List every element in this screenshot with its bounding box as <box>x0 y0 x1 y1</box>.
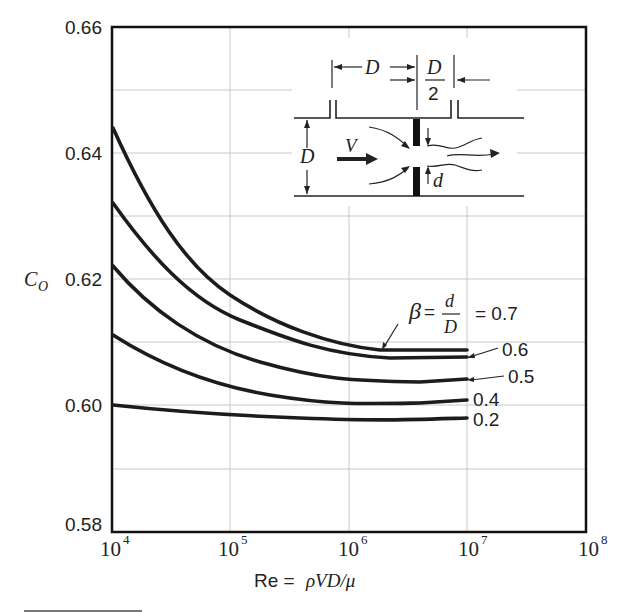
x-tick-1e4: 10 4 <box>100 532 130 561</box>
inset-label-D-upstream: D <box>364 56 380 78</box>
y-tick-064: 0.64 <box>65 143 102 164</box>
x-axis-label: Re = ρVD/μ <box>254 570 355 591</box>
y-tick-058: 0.58 <box>65 514 102 535</box>
inset-label-D-half-num: D <box>426 56 442 78</box>
svg-text:0.6: 0.6 <box>502 339 528 360</box>
label-beta-04: 0.4 <box>473 389 500 410</box>
x-tick-1e6: 10 6 <box>338 532 368 561</box>
svg-text:10: 10 <box>338 537 359 561</box>
svg-text:10: 10 <box>100 537 121 561</box>
svg-text:0.4: 0.4 <box>473 389 500 410</box>
svg-text:0.5: 0.5 <box>508 366 534 387</box>
y-tick-066: 0.66 <box>65 17 102 38</box>
y-axis-ticks: 0.66 0.64 0.62 0.60 0.58 <box>65 17 102 535</box>
x-axis-ticks: 10 4 10 5 10 6 10 7 10 8 <box>100 532 608 561</box>
svg-text:7: 7 <box>481 532 488 547</box>
curve-beta-0.2 <box>113 405 467 420</box>
svg-text:d: d <box>445 291 455 311</box>
inset-label-d: d <box>433 169 444 191</box>
svg-text:5: 5 <box>241 532 248 547</box>
svg-text:10: 10 <box>218 537 239 561</box>
svg-text:4: 4 <box>123 532 130 547</box>
svg-text:= 0.7: = 0.7 <box>475 303 518 324</box>
svg-text:10: 10 <box>578 537 599 561</box>
svg-text:=: = <box>424 301 435 322</box>
label-beta-07: β = d D = 0.7 <box>382 291 518 350</box>
svg-text:0.2: 0.2 <box>473 409 499 430</box>
curve-labels: β = d D = 0.7 0.6 0.5 0.4 0.2 <box>382 291 534 430</box>
svg-text:D: D <box>443 317 457 337</box>
inset-label-D-half-den: 2 <box>428 83 439 104</box>
svg-text:10: 10 <box>458 537 479 561</box>
svg-text:ρVD/μ: ρVD/μ <box>305 570 355 591</box>
x-tick-1e5: 10 5 <box>218 532 248 561</box>
inset-label-D-pipe: D <box>299 145 315 167</box>
label-beta-02: 0.2 <box>473 409 499 430</box>
svg-text:β: β <box>408 298 421 324</box>
x-tick-1e8: 10 8 <box>578 532 608 561</box>
y-tick-060: 0.60 <box>65 395 102 416</box>
y-tick-062: 0.62 <box>65 269 102 290</box>
y-label-c: C <box>24 268 38 290</box>
x-tick-1e7: 10 7 <box>458 532 488 561</box>
y-label-sub: O <box>38 279 48 294</box>
svg-text:6: 6 <box>361 532 368 547</box>
orifice-inset-diagram: D D 2 D V <box>292 38 524 206</box>
label-beta-05: 0.5 <box>467 366 534 387</box>
svg-text:Re =: Re = <box>254 570 295 591</box>
orifice-coefficient-chart: 0.66 0.64 0.62 0.60 0.58 C O 10 4 10 5 1… <box>0 0 618 612</box>
y-axis-label: C O <box>24 268 48 294</box>
svg-text:8: 8 <box>601 532 608 547</box>
